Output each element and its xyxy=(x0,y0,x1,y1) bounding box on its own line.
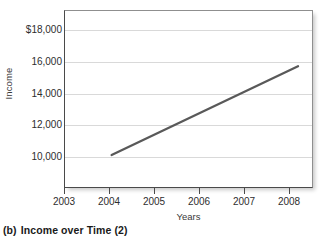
x-tick-2007 xyxy=(244,188,245,194)
x-tick-2006 xyxy=(199,188,200,194)
y-tick-label-16000: 16,000 xyxy=(2,57,62,67)
figure-caption: (b)Income over Time (2) xyxy=(3,224,128,236)
x-tick-2008 xyxy=(289,188,290,194)
y-tick-label-10000: 10,000 xyxy=(2,152,62,162)
figure-container: Income $18,000 16,000 14,000 12,000 10,0… xyxy=(0,0,326,240)
x-axis-title: Years xyxy=(64,211,313,222)
data-line-series xyxy=(65,11,312,187)
x-tick-label-2007: 2007 xyxy=(219,196,269,207)
x-tick-2004 xyxy=(109,188,110,194)
x-tick-2003 xyxy=(64,188,65,194)
x-tick-label-2004: 2004 xyxy=(84,196,134,207)
x-tick-2005 xyxy=(154,188,155,194)
y-tick-label-18000: $18,000 xyxy=(2,25,62,35)
x-tick-label-2008: 2008 xyxy=(264,196,314,207)
plot-area xyxy=(64,10,313,188)
x-tick-label-2003: 2003 xyxy=(39,196,89,207)
figure-caption-letter: (b) xyxy=(3,224,17,236)
x-tick-label-2005: 2005 xyxy=(129,196,179,207)
x-tick-label-2006: 2006 xyxy=(174,196,224,207)
y-tick-label-12000: 12,000 xyxy=(2,120,62,130)
y-tick-label-14000: 14,000 xyxy=(2,89,62,99)
figure-caption-text: Income over Time (2) xyxy=(21,224,128,236)
